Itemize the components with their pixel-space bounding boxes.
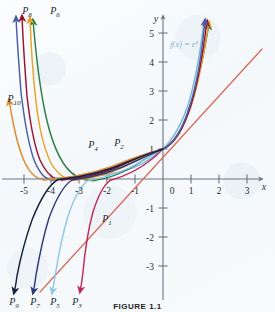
curve-p3-left-branch <box>80 181 110 293</box>
x-tick-label: -3 <box>75 186 83 196</box>
label-p10: P10 <box>6 93 21 107</box>
function-label: f(x) = ex <box>170 39 199 49</box>
x-tick-label: -1 <box>131 186 139 196</box>
figure-caption: FIGURE 1.1 <box>0 302 275 312</box>
y-tick-label: 4 <box>149 58 154 68</box>
curve-p4-left-branch <box>30 18 76 180</box>
origin-label: 0 <box>170 186 175 196</box>
figure-root: -5 -4 -3 -2 -1 0 1 2 3 5 4 3 2 1 -1 -2 -… <box>0 0 275 312</box>
x-tick-label: -4 <box>47 186 55 196</box>
y-tick-label: 1 <box>149 145 154 155</box>
curve-p2-left-branch <box>33 20 94 181</box>
y-tick-labels: 5 4 3 2 1 -1 -2 -3 <box>146 29 154 272</box>
function-label-text: f(x) = e <box>170 39 196 49</box>
y-tick-label: -2 <box>146 233 154 243</box>
label-p2: P2 <box>113 137 124 151</box>
taylor-polynomial-plot: -5 -4 -3 -2 -1 0 1 2 3 5 4 3 2 1 -1 -2 -… <box>0 0 275 312</box>
label-p8: P8 <box>21 5 32 19</box>
x-tick-labels: -5 -4 -3 -2 -1 0 1 2 3 <box>20 186 250 196</box>
y-axis-label: y <box>153 13 159 24</box>
x-tick-label: 1 <box>189 186 194 196</box>
y-tick-label: 5 <box>149 29 154 39</box>
y-tick-label: -1 <box>146 204 154 214</box>
x-tick-label: 3 <box>245 186 250 196</box>
axes-group <box>2 16 262 300</box>
y-tick-label: 3 <box>149 87 154 97</box>
label-p4: P4 <box>87 139 98 153</box>
y-tick-label: 2 <box>149 116 154 126</box>
x-tick-label: -5 <box>20 186 28 196</box>
x-tick-label: 2 <box>217 186 222 196</box>
y-tick-label: -3 <box>146 262 154 272</box>
label-p6: P6 <box>49 5 60 19</box>
curve-p1 <box>40 49 262 292</box>
x-tick-label: -2 <box>103 186 111 196</box>
x-axis-label: x <box>261 181 267 192</box>
curve-p7-left-branch <box>33 180 72 293</box>
curve-p10-left-branch <box>9 100 44 180</box>
function-label-exponent: x <box>195 39 199 45</box>
